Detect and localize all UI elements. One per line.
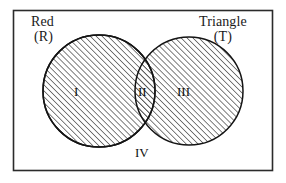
region-label-iii: III	[177, 85, 190, 98]
set-label-red-name: Red	[31, 14, 54, 29]
region-label-iv: IV	[135, 146, 149, 159]
set-label-red: Red (R)	[31, 14, 54, 44]
set-label-triangle-name: Triangle	[199, 14, 247, 29]
venn-diagram-figure: Red (R) Triangle (T) I II III IV	[0, 0, 286, 183]
set-label-triangle: Triangle (T)	[199, 14, 247, 44]
region-label-ii: II	[138, 85, 147, 98]
region-label-i: I	[74, 85, 78, 98]
set-label-triangle-symbol: (T)	[199, 29, 247, 44]
set-label-red-symbol: (R)	[31, 29, 54, 44]
